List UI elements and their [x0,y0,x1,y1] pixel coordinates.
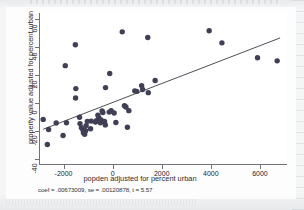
x-axis-title: popden adjusted for percent urban [40,174,240,183]
y-tick-label: 40 [31,45,38,67]
data-point [83,128,88,133]
data-point [107,71,112,76]
data-point [63,63,68,68]
data-point [206,28,211,33]
data-point [73,86,78,91]
data-point [126,108,131,113]
data-point [152,78,157,83]
x-tick-mark [64,165,65,169]
data-point [134,89,139,94]
data-point [45,142,50,147]
x-tick-mark [162,165,163,169]
data-point [120,29,125,34]
data-point [73,42,78,47]
scatter-plot-figure: property value adjusted for percent urba… [6,7,296,199]
data-point [140,87,145,92]
data-point [46,127,51,132]
data-point [255,55,260,60]
y-tick-label: 60 [31,17,38,39]
data-point [103,122,108,127]
x-tick-mark [113,165,114,169]
plot-area: -40-200204060-20000200040006000 [39,13,287,165]
data-point [146,90,151,95]
data-point [53,120,58,125]
data-point [77,115,82,120]
data-points-group [40,28,279,147]
data-point [88,126,93,131]
data-point [60,133,65,138]
x-tick-mark [211,165,212,169]
data-point [111,110,116,115]
scan-artifact-top [30,0,280,4]
data-point [40,117,45,122]
scan-artifact-bottom [6,198,196,205]
data-point [100,110,105,115]
data-point [103,85,108,90]
data-point [219,40,224,45]
x-tick-label: 6000 [252,170,268,177]
regression-note: coef = .00673009, se = .00120878, t = 5.… [38,186,152,193]
data-point [73,95,78,100]
scanned-page: property value adjusted for percent urba… [0,0,304,210]
y-tick-label: 0 [31,102,38,124]
data-point [113,120,118,125]
data-point [145,35,150,40]
x-tick-mark [260,165,261,169]
data-point [125,125,130,130]
y-tick-label: -20 [31,130,38,152]
plot-canvas [39,13,287,165]
y-tick-label: 20 [31,73,38,95]
data-point [64,120,69,125]
data-point [274,58,279,63]
y-tick-label: -40 [31,158,38,180]
